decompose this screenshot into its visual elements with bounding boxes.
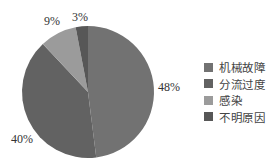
legend-item-over-drainage: 分流过度 [204, 76, 265, 93]
legend-label: 不明原因 [219, 109, 265, 125]
legend-swatch [204, 96, 213, 105]
legend-item-mechanical-failure: 机械故障 [204, 59, 265, 76]
legend-item-unknown: 不明原因 [204, 109, 265, 126]
legend-item-infection: 感染 [204, 92, 265, 109]
legend-label: 感染 [219, 92, 242, 108]
slice-mechanical-failure [88, 26, 154, 157]
pie-slices [22, 26, 154, 158]
legend-label: 分流过度 [219, 76, 265, 92]
legend-label: 机械故障 [219, 59, 265, 75]
slice-label-infection: 9% [44, 14, 60, 29]
slice-label-unknown: 3% [72, 10, 88, 25]
legend-swatch [204, 112, 213, 121]
slice-label-over-drainage: 40% [11, 132, 33, 147]
legend-swatch [204, 79, 213, 88]
slice-label-mechanical-failure: 48% [158, 80, 180, 95]
chart-legend: 机械故障 分流过度 感染 不明原因 [204, 59, 265, 125]
legend-swatch [204, 63, 213, 72]
